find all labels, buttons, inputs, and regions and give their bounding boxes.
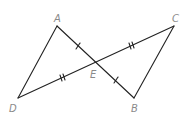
segment-AD [18, 26, 57, 98]
diagram-svg: A C E D B [0, 0, 190, 124]
segment-CB [134, 26, 174, 98]
label-E: E [90, 69, 97, 80]
label-C: C [172, 13, 179, 24]
label-B: B [131, 103, 138, 114]
label-A: A [53, 13, 61, 24]
label-D: D [9, 103, 17, 114]
geometry-diagram: A C E D B [0, 0, 190, 124]
segment-DC [18, 26, 174, 98]
